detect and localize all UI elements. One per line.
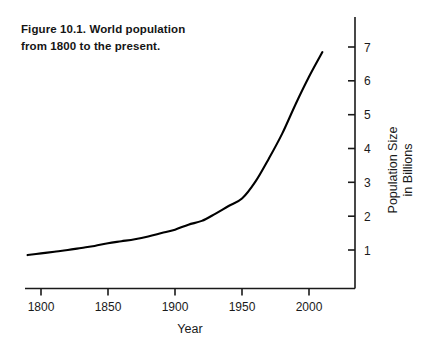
y-axis-title: Population Size in Billions	[386, 127, 415, 214]
x-tick-label-1900: 1900	[162, 300, 189, 314]
y-axis-ticks	[348, 47, 355, 250]
x-tick-label-2000: 2000	[296, 300, 323, 314]
y-axis-title-line-2: in Billions	[401, 144, 415, 197]
x-tick-label-1850: 1850	[95, 300, 122, 314]
population-line-chart: 1800 1850 1900 1950 2000 Year 1 2 3 4 5 …	[0, 0, 431, 350]
x-tick-label-1800: 1800	[28, 300, 55, 314]
y-tick-label-1: 1	[364, 244, 371, 258]
figure-panel: Figure 10.1. World population from 1800 …	[0, 0, 431, 350]
y-tick-label-6: 6	[364, 74, 371, 88]
y-tick-label-2: 2	[364, 210, 371, 224]
x-axis-tick-labels: 1800 1850 1900 1950 2000	[28, 300, 323, 314]
y-tick-label-3: 3	[364, 176, 371, 190]
y-tick-label-4: 4	[364, 142, 371, 156]
y-tick-label-5: 5	[364, 108, 371, 122]
x-axis-title: Year	[177, 322, 202, 336]
y-axis-title-line-1: Population Size	[386, 127, 400, 214]
y-tick-label-7: 7	[364, 41, 371, 55]
y-axis-tick-labels: 1 2 3 4 5 6 7	[364, 41, 371, 258]
x-tick-label-1950: 1950	[229, 300, 256, 314]
x-axis-ticks	[41, 289, 309, 296]
population-curve	[28, 52, 323, 255]
